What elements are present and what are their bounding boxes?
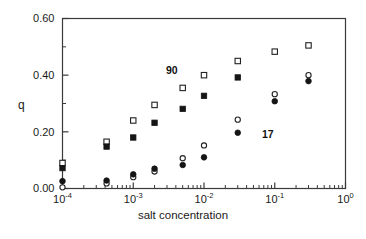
data-point-filled-circle [272, 98, 278, 104]
data-point-open-square [180, 85, 185, 90]
plot-frame [63, 19, 346, 189]
data-point-filled-circle [152, 166, 158, 172]
data-point-filled-square [235, 75, 240, 80]
data-point-filled-circle [60, 178, 66, 184]
data-point-filled-circle [180, 162, 186, 168]
data-point-open-square [272, 49, 277, 54]
annotation-90: 90 [166, 64, 178, 76]
data-point-open-circle [60, 185, 65, 190]
data-point-open-circle [180, 156, 185, 161]
x-tick-label: 10-3 [124, 191, 143, 205]
data-point-open-square [131, 118, 136, 123]
data-point-open-square [152, 102, 157, 107]
data-point-open-square [306, 43, 311, 48]
y-tick-label: 0.20 [33, 126, 54, 138]
y-tick-label: 0.60 [33, 12, 54, 24]
y-tick-label: 0.40 [33, 69, 54, 81]
data-point-filled-square [152, 120, 157, 125]
data-point-open-circle [235, 117, 240, 122]
data-point-filled-square [201, 93, 206, 98]
series-filled-square [60, 75, 241, 171]
data-point-open-circle [272, 92, 277, 97]
chart-figure: 0.000.200.400.6010-410-310-210-1100 q sa… [0, 0, 366, 239]
data-point-filled-square [131, 135, 136, 140]
x-tick-label: 100 [337, 191, 353, 205]
data-point-open-circle [201, 143, 206, 148]
annotation-17: 17 [262, 128, 274, 140]
data-point-filled-circle [104, 178, 110, 184]
x-tick-label: 10-4 [53, 191, 72, 205]
series-open-square [60, 43, 311, 166]
data-point-open-square [201, 72, 206, 77]
x-tick-label: 10-1 [265, 191, 284, 205]
data-point-filled-circle [306, 78, 312, 84]
scatter-plot-canvas: 0.000.200.400.6010-410-310-210-1100 [0, 0, 366, 239]
data-point-open-square [235, 58, 240, 63]
x-tick-label: 10-2 [195, 191, 214, 205]
data-point-filled-circle [130, 172, 136, 178]
data-point-open-circle [306, 73, 311, 78]
y-tick-label: 0.00 [33, 182, 54, 194]
y-axis-label: q [18, 98, 25, 112]
data-point-filled-square [180, 106, 185, 111]
data-point-filled-circle [235, 130, 241, 136]
data-point-filled-square [60, 165, 65, 170]
data-point-filled-circle [201, 155, 207, 161]
data-point-filled-square [104, 144, 109, 149]
x-axis-label: salt concentration [0, 209, 366, 221]
data-point-open-square [60, 160, 65, 165]
